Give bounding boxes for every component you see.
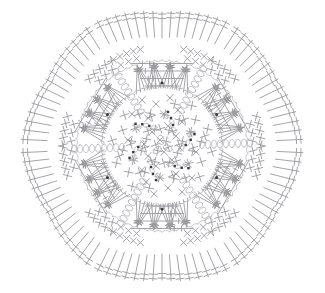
stitch-marker-dot	[141, 123, 143, 125]
chart-background	[0, 0, 325, 293]
stitch-line	[149, 274, 157, 275]
stitch-marker-dot	[155, 179, 157, 181]
stitch-line	[167, 278, 175, 279]
slip-stitch-dot	[215, 176, 218, 179]
stitch-marker-dot	[152, 173, 154, 175]
stitch-marker-dot	[148, 125, 150, 127]
slip-stitch-dot	[161, 208, 164, 211]
slip-stitch-dot	[106, 176, 109, 179]
stitch-marker-dot	[167, 111, 169, 113]
stitch-marker-dot	[137, 146, 139, 148]
stitch-marker-dot	[173, 165, 175, 167]
stitch-marker-dot	[128, 157, 130, 159]
stitch-line	[167, 18, 175, 19]
stitch-marker-dot	[150, 166, 152, 168]
stitch-marker-dot	[172, 124, 174, 126]
stitch-line	[89, 109, 90, 115]
crochet-chart-canvas	[0, 0, 325, 293]
stitch-marker-dot	[134, 123, 136, 125]
crochet-hexagon-motif	[0, 0, 325, 293]
stitch-line	[235, 177, 236, 183]
slip-stitch-dot	[161, 82, 164, 85]
stitch-marker-dot	[190, 139, 192, 141]
slip-stitch-dot	[215, 113, 218, 116]
stitch-line	[149, 13, 157, 14]
stitch-line	[91, 109, 92, 115]
stitch-line	[233, 177, 234, 183]
stitch-marker-dot	[132, 151, 134, 153]
stitch-marker-dot	[187, 167, 189, 169]
stitch-marker-dot	[193, 133, 195, 135]
stitch-marker-dot	[170, 117, 172, 119]
stitch-marker-dot	[181, 167, 183, 169]
stitch-line	[167, 13, 175, 14]
stitch-line	[167, 274, 175, 275]
stitch-line	[149, 18, 157, 19]
slip-stitch-dot	[106, 113, 109, 116]
stitch-line	[149, 278, 157, 279]
stitch-marker-dot	[184, 144, 186, 146]
